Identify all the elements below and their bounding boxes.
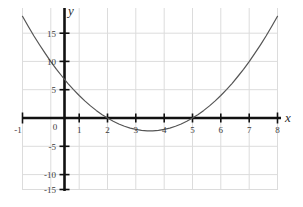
xtick-label--1: -1 xyxy=(14,125,22,135)
xtick-label-7: 7 xyxy=(247,125,252,135)
xtick-label-1: 1 xyxy=(77,125,82,135)
xtick-label-0: 0 xyxy=(53,122,58,132)
y-axis-label: y xyxy=(66,3,74,18)
xtick-label-8: 8 xyxy=(275,125,280,135)
ytick-label--5: -5 xyxy=(49,142,57,152)
xtick-label-2: 2 xyxy=(105,125,110,135)
ytick-label--10: -10 xyxy=(44,170,56,180)
ytick-label-10: 10 xyxy=(47,57,57,67)
ytick-label-5: 5 xyxy=(52,85,57,95)
xtick-label-5: 5 xyxy=(190,125,195,135)
xtick-label-6: 6 xyxy=(219,125,224,135)
ytick-label-15: 15 xyxy=(47,29,57,39)
parabola-plot: -1 0 1 2 3 4 5 6 7 8 15 10 5 -5 -10 -15 … xyxy=(0,0,303,207)
xtick-label-4: 4 xyxy=(162,125,167,135)
ytick-label--15: -15 xyxy=(44,185,56,195)
graph-figure: -1 0 1 2 3 4 5 6 7 8 15 10 5 -5 -10 -15 … xyxy=(0,0,303,207)
x-axis-label: x xyxy=(284,110,291,125)
xtick-label-3: 3 xyxy=(134,125,139,135)
